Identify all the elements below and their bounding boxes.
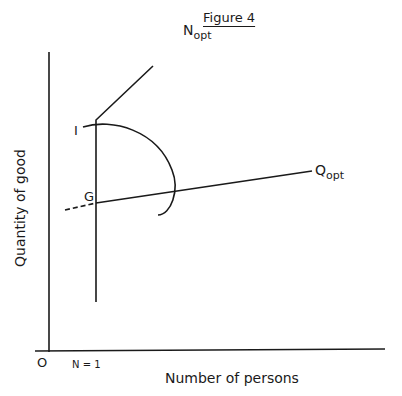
x-axis xyxy=(35,349,385,351)
origin-label: O xyxy=(37,355,47,370)
n-opt-label: Nopt xyxy=(183,22,212,38)
indifference-arc xyxy=(83,124,175,215)
q-opt-sub: opt xyxy=(326,169,344,182)
q-opt-dashed-extension xyxy=(65,203,96,210)
q-opt-main: Q xyxy=(315,162,326,178)
diagram-canvas xyxy=(0,0,402,396)
point-i-label: I xyxy=(74,123,78,138)
n-equals-one-label: N = 1 xyxy=(72,359,101,370)
q-opt-line xyxy=(96,171,312,203)
point-g-label: G xyxy=(84,189,94,204)
x-axis-label: Number of persons xyxy=(165,370,299,386)
q-opt-label: Qopt xyxy=(315,162,344,178)
n-opt-sub: opt xyxy=(193,29,211,42)
n-opt-main: N xyxy=(183,22,193,38)
y-axis-label: Quantity of good xyxy=(12,149,28,267)
n-opt-curve xyxy=(96,66,153,302)
